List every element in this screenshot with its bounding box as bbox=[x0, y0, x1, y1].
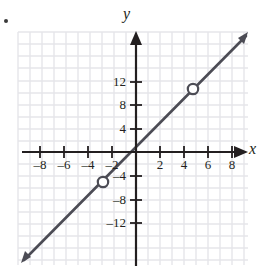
y-tick-label--4: –4 bbox=[100, 169, 126, 182]
open-circle-upper-right bbox=[188, 84, 198, 94]
x-tick-label-6: 6 bbox=[200, 158, 216, 171]
x-tick-label-8: 8 bbox=[224, 158, 240, 171]
y-tick-label-8: 8 bbox=[104, 98, 126, 111]
x-tick-label--8: –8 bbox=[30, 158, 50, 171]
y-tick-label--12: –12 bbox=[96, 216, 126, 229]
x-tick-label-2: 2 bbox=[152, 158, 168, 171]
y-axis-label: y bbox=[123, 6, 130, 22]
y-tick-label-12: 12 bbox=[104, 75, 126, 88]
x-tick-label-4: 4 bbox=[176, 158, 192, 171]
x-tick-label--6: –6 bbox=[54, 158, 74, 171]
x-axis-arrow bbox=[234, 146, 248, 158]
coordinate-plane bbox=[0, 0, 266, 271]
y-axis-arrow bbox=[130, 31, 142, 45]
x-tick-label--4: –4 bbox=[78, 158, 98, 171]
y-tick-label-4: 4 bbox=[104, 122, 126, 135]
graph-figure: y x –8 –6 –4 –2 2 4 6 8 12 8 4 –4 –8 –12 bbox=[0, 0, 266, 271]
x-axis-label: x bbox=[249, 141, 256, 157]
function-line bbox=[21, 32, 248, 263]
y-tick-label--8: –8 bbox=[100, 193, 126, 206]
